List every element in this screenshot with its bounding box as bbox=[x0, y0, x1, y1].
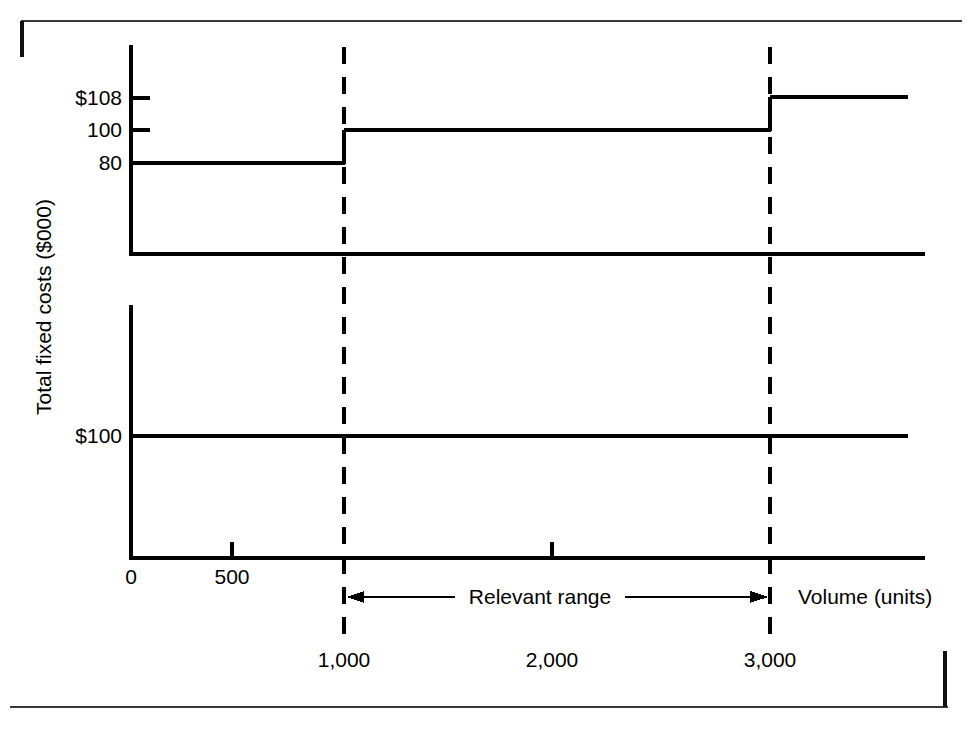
x-axis-title: Volume (units) bbox=[798, 586, 932, 607]
relevant-range-label: Relevant range bbox=[455, 586, 625, 607]
y-axis-title: Total fixed costs ($000) bbox=[32, 199, 56, 415]
xtick-label-500: 500 bbox=[202, 566, 262, 587]
panel-flat-fixed-costs bbox=[130, 305, 925, 560]
relevant-range-boundaries bbox=[344, 47, 770, 640]
figure-container: Total fixed costs ($000) $108 100 80 $10… bbox=[0, 0, 972, 731]
xtick-label-2000: 2,000 bbox=[507, 649, 597, 670]
lower-ytick-label-100: $100 bbox=[0, 425, 122, 446]
boundary-label-3000: 3,000 bbox=[725, 649, 815, 670]
upper-ytick-label-108: $108 bbox=[0, 87, 122, 108]
panel-step-fixed-costs bbox=[130, 45, 925, 256]
chart-canvas bbox=[0, 0, 972, 731]
upper-ytick-label-100: 100 bbox=[0, 119, 122, 140]
upper-ytick-label-80: 80 bbox=[0, 152, 122, 173]
xtick-label-0: 0 bbox=[111, 566, 151, 587]
arrow-head-left-icon bbox=[346, 591, 364, 603]
boundary-label-1000: 1,000 bbox=[299, 649, 389, 670]
arrow-head-right-icon bbox=[750, 591, 768, 603]
